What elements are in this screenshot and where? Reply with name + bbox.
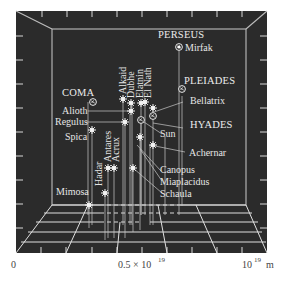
bellatrix-label: Bellatrix	[190, 95, 225, 106]
coma-label: COMA	[62, 87, 95, 98]
perseus-label: PERSEUS	[158, 29, 204, 40]
mirfak-star-icon	[177, 45, 180, 48]
mirfak-label: Mirfak	[185, 42, 213, 53]
achernar-label: Achernar	[189, 147, 227, 158]
svg-text:19: 19	[254, 256, 262, 264]
elnath-label: El Nath	[142, 67, 153, 98]
schaula-label: Schaula	[160, 188, 192, 199]
hyades-label: HYADES	[190, 119, 233, 130]
svg-text:m: m	[266, 259, 274, 270]
coma-cluster-icon	[90, 99, 97, 106]
regulus-label: Regulus	[55, 116, 88, 127]
axis-label-half: 0.5 × 10 19	[118, 256, 166, 270]
miaplacidus-label: Miaplacidus	[160, 176, 210, 187]
alioth-label: Alioth	[62, 105, 88, 116]
svg-text:0.5 × 10: 0.5 × 10	[118, 259, 151, 270]
canopus-label: Canopus	[160, 164, 195, 175]
mimosa-label: Mimosa	[56, 186, 89, 197]
axis-label-full: 10 19 m	[242, 256, 274, 270]
svg-text:10: 10	[242, 259, 252, 270]
svg-text:19: 19	[158, 256, 166, 264]
sun-label: Sun	[160, 128, 176, 139]
acrux-label: Acrux	[110, 137, 121, 162]
hyades-cluster-icon	[150, 113, 157, 120]
axis-label-zero: 0	[11, 259, 16, 270]
map-background	[16, 11, 267, 253]
hadar-label: Hadar	[93, 161, 104, 186]
sun-icon	[138, 117, 145, 124]
pleiades-cluster-icon	[179, 86, 186, 93]
star-map-diagram: PERSEUS Mirfak COMA PLEIADES Alioth Regu…	[0, 0, 292, 282]
pleiades-label: PLEIADES	[184, 75, 235, 86]
spica-label: Spica	[65, 131, 88, 142]
